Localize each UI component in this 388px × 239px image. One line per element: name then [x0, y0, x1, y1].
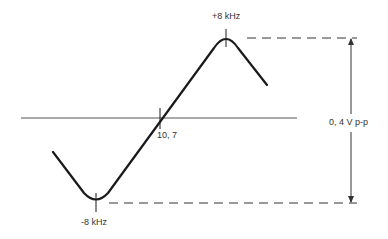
amplitude-label: 0, 4 V p-p — [328, 118, 369, 127]
arrow-down-icon — [348, 196, 354, 203]
center-frequency-label: 10, 7 — [157, 131, 177, 140]
arrow-up-icon — [348, 38, 354, 45]
top-peak-label: +8 kHz — [212, 12, 240, 21]
bottom-peak-label: -8 kHz — [81, 218, 107, 227]
